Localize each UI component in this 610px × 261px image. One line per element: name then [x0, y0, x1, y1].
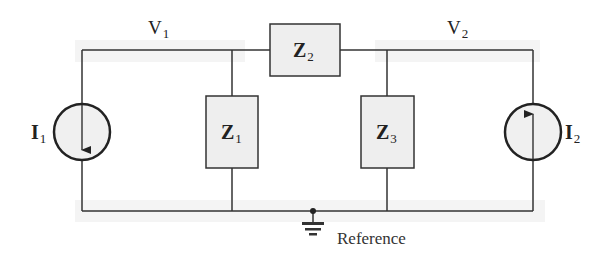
i2-subscript: 2: [574, 131, 581, 146]
i2-label: I2: [565, 122, 580, 145]
i1-subscript: 1: [40, 131, 47, 146]
current-source-i1-icon: [54, 104, 110, 160]
v1-letter: V: [148, 17, 162, 38]
i2-letter: I: [565, 121, 573, 143]
ground-icon: [302, 222, 324, 236]
current-source-i2-icon: [505, 104, 561, 160]
reference-label: Reference: [337, 230, 406, 247]
v2-letter: V: [447, 17, 461, 38]
z1-label: Z1: [221, 122, 242, 145]
z2-subscript: 2: [307, 49, 314, 64]
node-label-v1: V1: [148, 18, 169, 40]
z3-label: Z3: [376, 122, 397, 145]
z2-label: Z2: [293, 40, 314, 63]
z1-subscript: 1: [235, 131, 242, 146]
z3-subscript: 3: [390, 131, 397, 146]
i1-letter: I: [31, 121, 39, 143]
z3-letter: Z: [376, 121, 389, 143]
node-label-v2: V2: [447, 18, 468, 40]
v2-subscript: 2: [462, 26, 469, 41]
i1-label: I1: [31, 122, 46, 145]
z2-letter: Z: [293, 39, 306, 61]
reference-node-dot: [310, 208, 316, 214]
z1-letter: Z: [221, 121, 234, 143]
circuit-diagram: V1 V2 Z1 Z2 Z3 I1 I2 Reference: [0, 0, 610, 261]
v1-subscript: 1: [163, 26, 170, 41]
